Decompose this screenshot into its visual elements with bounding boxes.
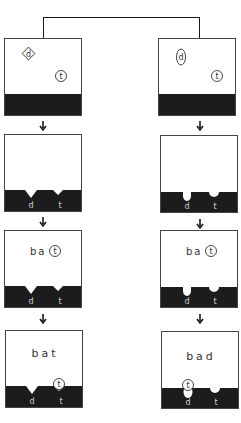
svg-text:d: d — [26, 50, 31, 59]
right-step-3-scene: ba t d t — [161, 231, 238, 308]
right-step-1-scene: d t — [159, 39, 236, 116]
ground-with-rounded-slots — [161, 287, 238, 308]
left-panel-step-2: d t — [4, 134, 82, 212]
left-panel-step-3: ba t d t — [4, 230, 82, 308]
ground-with-pointed-slots — [5, 190, 82, 212]
ground-with-rounded-slots — [162, 388, 239, 409]
svg-text:d: d — [178, 53, 183, 62]
down-arrow-icon — [38, 314, 48, 324]
ground-with-pointed-slots — [6, 386, 83, 408]
left-step-2-scene: d t — [5, 135, 82, 212]
slot-label-d: d — [28, 297, 33, 306]
token-d-diamond: d — [22, 47, 35, 60]
right-step-4-scene: bad t d t — [162, 332, 239, 409]
ground-with-rounded-slots — [161, 192, 238, 213]
token-t-in-t-slot: t — [54, 379, 65, 390]
slot-label-d: d — [29, 397, 34, 406]
right-step-2-scene: d t — [161, 136, 238, 213]
svg-text:t: t — [209, 247, 212, 256]
down-arrow-icon — [38, 217, 48, 227]
ground-band — [5, 94, 82, 116]
right-panel-step-1: d t — [158, 38, 236, 116]
slot-label-t: t — [213, 202, 216, 211]
ground-band — [159, 94, 236, 116]
circled-letter-t: t — [50, 246, 61, 257]
top-connector-bracket — [43, 17, 200, 39]
slot-label-t: t — [59, 397, 62, 406]
slot-label-d: d — [184, 202, 189, 211]
right-panel-step-4: bad t d t — [161, 331, 239, 409]
token-t-circle: t — [212, 71, 223, 82]
left-panel-step-4: bat t d t — [5, 330, 83, 408]
slot-label-t: t — [58, 201, 61, 210]
svg-text:t: t — [59, 72, 62, 81]
svg-text:t: t — [186, 381, 189, 390]
left-panel-step-1: d t — [4, 38, 82, 116]
svg-text:t: t — [57, 380, 60, 389]
slot-label-d: d — [185, 398, 190, 407]
slot-label-t: t — [58, 297, 61, 306]
left-step-4-scene: bat t d t — [6, 331, 83, 408]
token-d-oval: d — [177, 49, 186, 65]
down-arrow-icon — [38, 121, 48, 131]
svg-text:t: t — [53, 247, 56, 256]
left-step-1-scene: d t — [5, 39, 82, 116]
final-word: bat — [31, 347, 58, 360]
down-arrow-icon — [195, 219, 205, 229]
slot-label-d: d — [184, 297, 189, 306]
final-word: bad — [186, 350, 216, 363]
svg-text:t: t — [215, 72, 218, 81]
circled-letter-t: t — [206, 246, 217, 257]
left-step-3-scene: ba t d t — [5, 231, 82, 308]
ground-with-pointed-slots — [5, 286, 82, 308]
token-t-circle: t — [56, 71, 67, 82]
slot-label-d: d — [28, 201, 33, 210]
slot-label-t: t — [214, 398, 217, 407]
down-arrow-icon — [195, 314, 205, 324]
down-arrow-icon — [195, 121, 205, 131]
right-panel-step-3: ba t d t — [160, 230, 238, 308]
word-prefix: ba — [186, 246, 202, 257]
word-prefix: ba — [30, 246, 46, 257]
slot-label-t: t — [213, 297, 216, 306]
right-panel-step-2: d t — [160, 135, 238, 213]
